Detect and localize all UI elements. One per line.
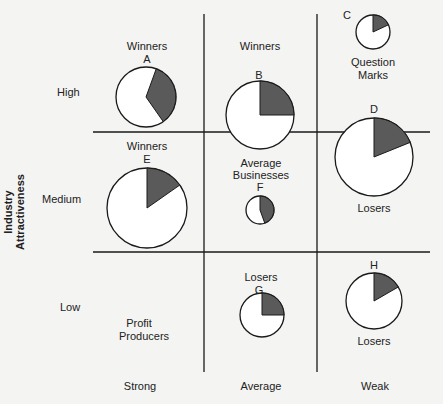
row-label-low: Low: [60, 301, 80, 313]
cell-label-question: Question: [351, 56, 395, 69]
business-label-b: B: [255, 69, 262, 82]
business-label-c: C: [343, 9, 351, 22]
pie-business-e: [107, 168, 187, 248]
cell-label-profit: Profit: [126, 317, 152, 330]
row-label-high: High: [57, 86, 80, 98]
business-label-f: F: [257, 181, 264, 194]
business-label-h: H: [370, 259, 378, 272]
pie-business-f: [246, 196, 274, 224]
col-label-strong: Strong: [124, 380, 156, 393]
pie-business-c: [356, 15, 390, 49]
y-axis-title: Industry Attractiveness: [2, 152, 26, 272]
cell-label-marks: Marks: [358, 69, 388, 82]
cell-label-losers-h: Losers: [357, 335, 390, 348]
cell-label-winners-e: Winners: [127, 140, 167, 153]
cell-label-losers-d: Losers: [357, 202, 390, 215]
business-label-d: D: [370, 103, 378, 116]
cell-label-winners-a: Winners: [127, 40, 167, 53]
col-label-average: Average: [241, 380, 282, 393]
pie-business-a: [116, 67, 176, 127]
cell-label-producers: Producers: [119, 330, 169, 343]
cell-label-winners-b: Winners: [240, 40, 280, 53]
business-label-e: E: [143, 153, 150, 166]
business-label-a: A: [143, 53, 150, 66]
pie-business-d: [335, 118, 413, 196]
business-label-g: G: [255, 284, 264, 297]
pie-business-b: [226, 81, 294, 149]
pie-business-h: [346, 273, 402, 329]
row-label-medium: Medium: [42, 193, 81, 205]
col-label-weak: Weak: [361, 380, 389, 393]
cell-label-losers-g: Losers: [244, 271, 277, 284]
pie-business-g: [240, 293, 284, 337]
